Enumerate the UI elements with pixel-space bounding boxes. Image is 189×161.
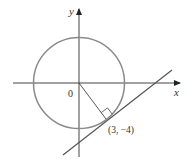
radius-segment <box>79 83 106 119</box>
y-axis-label: y <box>68 5 74 17</box>
diagram-canvas: y x 0 (3, −4) <box>0 0 189 161</box>
right-angle-marker <box>101 108 112 114</box>
x-axis-label: x <box>173 86 179 98</box>
origin-label: 0 <box>68 88 73 99</box>
tangent-point-label: (3, −4) <box>108 125 134 136</box>
